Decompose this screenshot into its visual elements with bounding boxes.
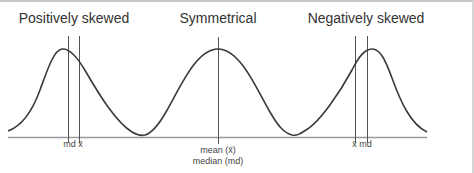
- distribution-curve: [8, 49, 427, 135]
- label-positive-md-mean: md x̄: [63, 138, 83, 150]
- label-symmetric-median: median (md): [193, 155, 244, 167]
- label-negative-mean-md: x̄ md: [352, 138, 372, 150]
